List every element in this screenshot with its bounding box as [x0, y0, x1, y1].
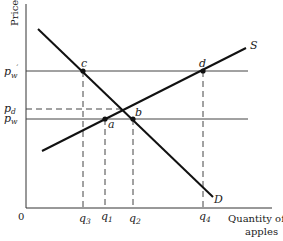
quantity-label-q3: q3 — [79, 212, 91, 226]
demand-label: D — [213, 193, 223, 206]
price-label-pw: pw — [4, 112, 18, 126]
point-a-marker — [102, 116, 107, 121]
point-b-label: b — [135, 106, 142, 119]
point-a-label: a — [108, 118, 115, 131]
price-label-pw-prime: pw′ — [4, 63, 18, 80]
quantity-label-q1: q1 — [101, 210, 113, 224]
demand-curve — [38, 29, 213, 197]
x-axis-label-line2: apples — [245, 226, 278, 237]
supply-demand-diagram: Price S D c d a b pw′ pd pw 0 q3 q1 q2 q… — [0, 0, 283, 241]
quantity-label-q4: q4 — [199, 210, 211, 224]
origin-label: 0 — [18, 211, 24, 222]
point-d-label: d — [199, 57, 206, 70]
quantity-label-q2: q2 — [129, 212, 141, 226]
supply-label: S — [250, 39, 258, 52]
point-c-label: c — [81, 57, 87, 70]
y-axis-label: Price — [9, 0, 20, 26]
x-axis-label-line1: Quantity of — [228, 213, 283, 224]
